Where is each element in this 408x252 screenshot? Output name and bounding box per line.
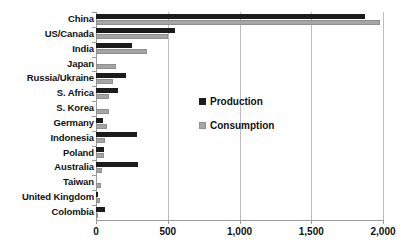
category-row: Taiwan <box>0 175 408 190</box>
category-row: India <box>0 42 408 57</box>
category-row: Colombia <box>0 205 408 220</box>
bar-production <box>96 192 98 197</box>
bar-production <box>96 118 103 123</box>
x-tick <box>96 220 97 224</box>
bar-consumption <box>96 64 116 69</box>
x-tick-label: 2,000 <box>370 226 395 237</box>
bar-production <box>96 132 137 137</box>
category-row: US/Canada <box>0 27 408 42</box>
bar-production <box>96 73 126 78</box>
category-row: Japan <box>0 57 408 72</box>
bar-production <box>96 14 365 19</box>
x-tick-label: 500 <box>159 226 176 237</box>
category-row: China <box>0 12 408 27</box>
x-tick <box>383 220 384 224</box>
bar-production <box>96 88 118 93</box>
x-tick <box>311 220 312 224</box>
bar-consumption <box>96 183 101 188</box>
bar-production <box>96 147 104 152</box>
category-row: Australia <box>0 160 408 175</box>
legend-label: Consumption <box>210 120 274 131</box>
legend-swatch-icon <box>199 122 206 129</box>
bar-production <box>96 28 175 33</box>
x-tick <box>240 220 241 224</box>
bar-consumption <box>96 20 380 25</box>
category-row: Russia/Ukraine <box>0 71 408 86</box>
bar-production <box>96 162 138 167</box>
y-tick <box>92 175 96 176</box>
chart-legend: ProductionConsumption <box>199 93 274 141</box>
bar-chart: ChinaUS/CanadaIndiaJapanRussia/UkraineS.… <box>0 0 408 252</box>
bar-consumption <box>96 198 100 203</box>
x-tick-label: 0 <box>93 226 99 237</box>
category-label: United Kingdom <box>22 190 94 205</box>
legend-label: Production <box>210 96 263 107</box>
bar-consumption <box>96 49 147 54</box>
x-tick-label: 1,000 <box>227 226 252 237</box>
bar-production <box>96 43 132 48</box>
bar-consumption <box>96 124 107 129</box>
legend-swatch-icon <box>199 98 206 105</box>
x-tick <box>168 220 169 224</box>
x-tick-label: 1,500 <box>299 226 324 237</box>
category-label: Poland <box>63 146 94 161</box>
bar-consumption <box>96 213 98 218</box>
bar-consumption <box>96 94 109 99</box>
category-label: China <box>68 12 94 27</box>
y-tick <box>92 57 96 58</box>
category-label: Colombia <box>52 205 94 220</box>
bar-consumption <box>96 109 109 114</box>
category-label: Japan <box>67 57 94 72</box>
bar-consumption <box>96 79 113 84</box>
category-label: India <box>72 42 94 57</box>
category-label: Indonesia <box>51 131 94 146</box>
legend-entry: Consumption <box>199 117 274 133</box>
legend-entry: Production <box>199 93 274 109</box>
category-label: Taiwan <box>63 175 94 190</box>
category-row: United Kingdom <box>0 190 408 205</box>
category-label: Russia/Ukraine <box>27 71 94 86</box>
bar-consumption <box>96 153 104 158</box>
bar-consumption <box>96 34 168 39</box>
y-tick <box>92 101 96 102</box>
category-row: Poland <box>0 146 408 161</box>
category-label: S. Korea <box>56 101 94 116</box>
category-label: S. Africa <box>57 86 94 101</box>
bar-production <box>96 207 105 212</box>
category-label: Germany <box>54 116 95 131</box>
bar-consumption <box>96 138 105 143</box>
category-label: US/Canada <box>45 27 94 42</box>
bar-consumption <box>96 168 102 173</box>
category-label: Australia <box>54 160 94 175</box>
